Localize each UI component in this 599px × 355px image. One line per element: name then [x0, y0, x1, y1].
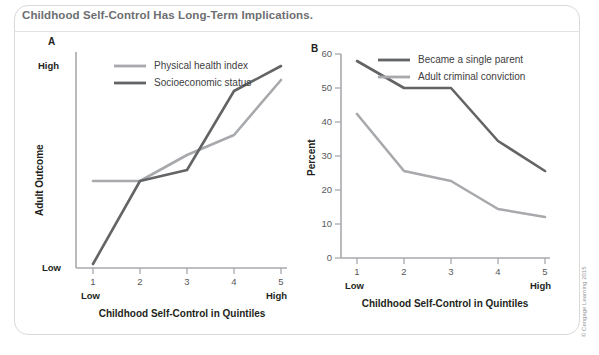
panel-b-y-tick-4: 40 — [312, 116, 332, 127]
panel-b-x-tick-4: 5 — [538, 266, 552, 277]
panel-a-series-physical-health-index — [93, 80, 281, 181]
panel-a-x-low-label: Low — [81, 290, 100, 301]
panel-a-legend-label-1: Socioeconomic status — [154, 77, 251, 88]
panel-b-x-tick-2: 3 — [444, 266, 458, 277]
panel-b-x-ticks — [357, 258, 545, 264]
panel-a-legend-label-0: Physical health index — [154, 60, 248, 71]
panel-b-y-tick-6: 60 — [312, 48, 332, 59]
panel-a-x-high-label: High — [266, 290, 287, 301]
panel-a-x-tick-2: 3 — [180, 276, 194, 287]
panel-b-legend-label-1: Adult criminal conviction — [418, 71, 525, 82]
panel-a-series-socioeconomic-status — [93, 66, 281, 264]
panel-a-x-axis-title: Childhood Self-Control in Quintiles — [57, 308, 307, 319]
panel-b-y-tick-5: 50 — [312, 82, 332, 93]
panel-b-x-high-label: High — [530, 280, 551, 291]
panel-a-x-tick-4: 5 — [274, 276, 288, 287]
panel-a-y-high-label: High — [38, 60, 59, 71]
panel-b: B — [300, 36, 570, 328]
panel-a-x-tick-1: 2 — [133, 276, 147, 287]
panel-a-x-tick-3: 4 — [227, 276, 241, 287]
panel-a-x-ticks — [93, 268, 281, 274]
panel-b-y-tick-1: 10 — [312, 218, 332, 229]
panel-b-y-tick-2: 20 — [312, 184, 332, 195]
panel-b-series-adult-criminal-conviction — [357, 114, 545, 217]
panel-b-x-tick-1: 2 — [397, 266, 411, 277]
panel-b-y-tick-0: 0 — [312, 252, 332, 263]
panel-b-x-axis-title: Childhood Self-Control in Quintiles — [320, 298, 570, 309]
figure-root: Childhood Self-Control Has Long-Term Imp… — [0, 0, 599, 355]
panel-b-y-ticks — [335, 54, 341, 258]
figure-credit: © Cengage Learning 2015 — [581, 267, 587, 337]
panel-b-x-low-label: Low — [345, 280, 364, 291]
panel-a-y-axis-title: Adult Outcome — [34, 144, 45, 216]
panel-b-y-tick-3: 30 — [312, 150, 332, 161]
panel-b-legend-label-0: Became a single parent — [418, 54, 523, 65]
figure-title: Childhood Self-Control Has Long-Term Imp… — [22, 9, 313, 21]
panel-b-x-tick-3: 4 — [491, 266, 505, 277]
figure-credit-wrap: © Cengage Learning 2015 — [587, 247, 597, 337]
panel-a-x-tick-0: 1 — [86, 276, 100, 287]
panel-a: A Physical health index Socioecono — [22, 36, 297, 328]
panel-a-y-low-label: Low — [42, 262, 61, 273]
panel-b-x-tick-0: 1 — [350, 266, 364, 277]
